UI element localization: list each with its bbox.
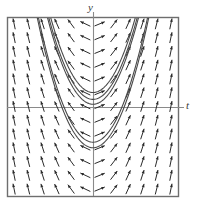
direction-field-figure: y t bbox=[0, 0, 201, 209]
plot-canvas bbox=[0, 0, 201, 209]
